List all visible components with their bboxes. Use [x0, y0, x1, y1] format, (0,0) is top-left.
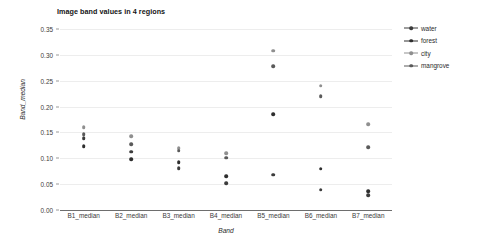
gridline: [60, 55, 392, 56]
x-tick-label: B1_median: [68, 212, 100, 219]
legend-label: water: [421, 25, 437, 32]
legend-item-forest[interactable]: forest: [404, 35, 474, 48]
y-tick-label: 0.15: [41, 129, 53, 136]
data-point: [366, 122, 370, 126]
x-tick-label: B7_median: [352, 212, 384, 219]
y-tick-label: 0.10: [41, 155, 53, 162]
y-tick-mark: [56, 132, 59, 133]
data-point: [366, 193, 370, 197]
x-tick-label: B5_median: [257, 212, 289, 219]
data-point: [129, 150, 133, 154]
data-point: [319, 188, 323, 192]
y-tick-mark: [56, 184, 59, 185]
data-point: [272, 49, 276, 53]
x-tick-label: B6_median: [305, 212, 337, 219]
y-tick-mark: [56, 54, 59, 55]
y-tick-label: 0.05: [41, 181, 53, 188]
y-tick-mark: [56, 29, 59, 30]
y-tick-mark: [56, 210, 59, 211]
y-tick-mark: [56, 106, 59, 107]
data-point: [319, 94, 323, 98]
data-point: [177, 149, 181, 153]
data-point: [366, 190, 370, 194]
data-point: [224, 156, 228, 160]
data-point: [82, 145, 86, 149]
gridline: [60, 107, 392, 108]
legend-label: mangrove: [421, 62, 449, 69]
data-point: [129, 143, 133, 147]
y-tick-label: 0.25: [41, 77, 53, 84]
legend-dot-icon: [409, 64, 413, 68]
data-point: [177, 161, 181, 165]
y-tick-mark: [56, 158, 59, 159]
legend-marker-icon: [404, 25, 418, 32]
data-point: [366, 145, 370, 149]
legend-marker-icon: [404, 62, 418, 69]
legend-item-city[interactable]: city: [404, 47, 474, 60]
legend-item-mangrove[interactable]: mangrove: [404, 60, 474, 73]
legend-marker-icon: [404, 50, 418, 57]
data-point: [272, 173, 276, 177]
y-tick-label: 0.30: [41, 51, 53, 58]
data-point: [319, 167, 323, 171]
x-axis-title: Band: [60, 227, 392, 234]
chart-legend: waterforestcitymangrove: [404, 22, 474, 72]
legend-item-water[interactable]: water: [404, 22, 474, 35]
y-tick-label: 0.20: [41, 103, 53, 110]
x-axis: B1_medianB2_medianB3_medianB4_medianB5_m…: [60, 212, 392, 224]
data-point: [82, 132, 86, 136]
y-tick-label: 0.00: [41, 207, 53, 214]
x-tick-label: B3_median: [162, 212, 194, 219]
legend-label: city: [421, 50, 431, 57]
chart-title: Image band values in 4 regions: [57, 7, 165, 16]
data-point: [177, 166, 181, 170]
data-point: [82, 136, 86, 140]
data-point: [82, 125, 86, 129]
data-point: [272, 113, 276, 117]
y-tick-mark: [56, 80, 59, 81]
y-axis-title: Band_median: [19, 70, 26, 130]
x-tick-label: B2_median: [115, 212, 147, 219]
legend-dot-icon: [409, 39, 413, 43]
legend-dot-icon: [409, 26, 413, 30]
data-point: [129, 158, 133, 162]
gridline: [60, 81, 392, 82]
plot-area: [60, 29, 392, 210]
x-axis-line: [60, 210, 392, 211]
data-point: [272, 64, 276, 68]
scatter-chart: Image band values in 4 regions 0.000.050…: [0, 0, 477, 245]
data-point: [129, 134, 133, 138]
x-tick-label: B4_median: [210, 212, 242, 219]
legend-label: forest: [421, 37, 437, 44]
y-tick-label: 0.35: [41, 26, 53, 33]
data-point: [224, 151, 228, 155]
legend-dot-icon: [409, 51, 413, 55]
y-axis: 0.000.050.100.150.200.250.300.35: [0, 29, 58, 210]
legend-marker-icon: [404, 37, 418, 44]
gridline: [60, 132, 392, 133]
data-point: [319, 84, 323, 88]
data-point: [224, 175, 228, 179]
gridline: [60, 29, 392, 30]
data-point: [224, 181, 228, 185]
